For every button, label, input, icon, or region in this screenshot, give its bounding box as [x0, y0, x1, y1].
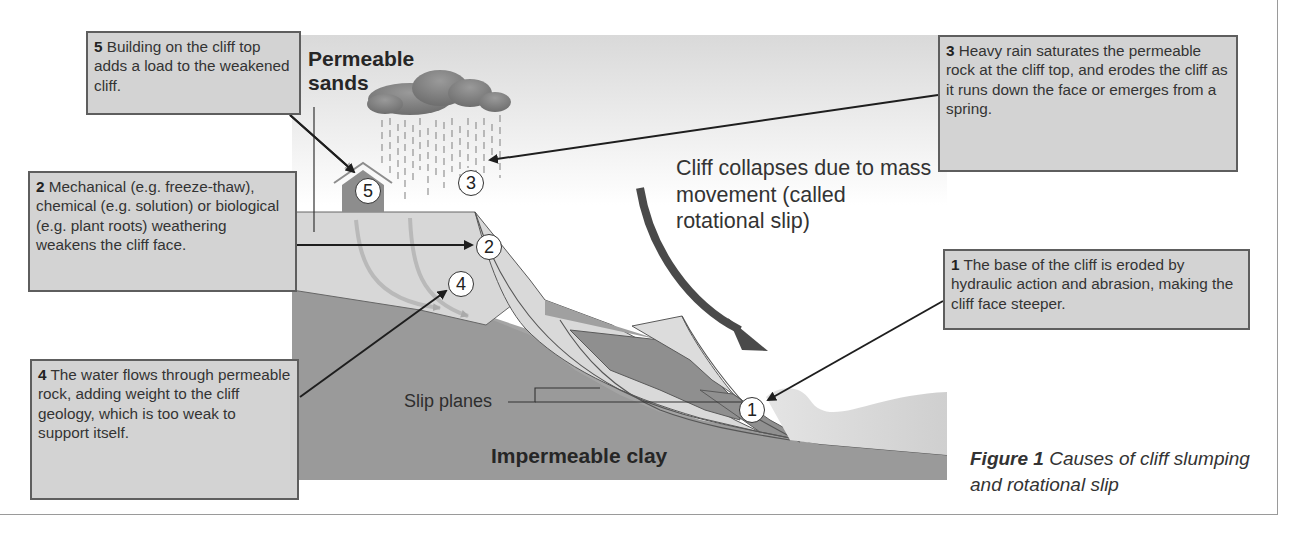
- marker-2: 2: [476, 234, 502, 260]
- leader-1: [768, 301, 943, 400]
- label-collapse-note: Cliff collapses due to mass movement (ca…: [676, 155, 936, 235]
- callout-4: 4 The water flows through permeable rock…: [30, 359, 299, 500]
- label-permeable-sands: Permeable sands: [308, 47, 458, 95]
- label-slip-planes: Slip planes: [404, 391, 492, 412]
- callout-1-number: 1: [951, 256, 960, 273]
- marker-5: 5: [355, 178, 381, 204]
- callout-4-text: The water flows through permeable rock, …: [38, 366, 290, 441]
- callout-2-number: 2: [36, 178, 45, 195]
- caption-title: Figure 1: [970, 448, 1044, 469]
- marker-1: 1: [739, 397, 765, 423]
- callout-3-number: 3: [946, 42, 955, 59]
- callout-1: 1 The base of the cliff is eroded by hyd…: [943, 249, 1250, 330]
- label-impermeable-clay: Impermeable clay: [491, 444, 667, 468]
- marker-3: 3: [458, 170, 484, 196]
- callout-3: 3 Heavy rain saturates the permeable roc…: [938, 35, 1238, 172]
- callout-3-text: Heavy rain saturates the permeable rock …: [946, 42, 1228, 117]
- marker-4: 4: [448, 271, 474, 297]
- figure-caption: Figure 1 Causes of cliff slumping and ro…: [970, 446, 1260, 498]
- callout-5: 5 Building on the cliff top adds a load …: [86, 31, 301, 115]
- callout-4-number: 4: [38, 366, 47, 383]
- callout-1-text: The base of the cliff is eroded by hydra…: [951, 256, 1233, 312]
- callout-5-text: Building on the cliff top adds a load to…: [94, 38, 290, 94]
- callout-2: 2 Mechanical (e.g. freeze-thaw), chemica…: [28, 171, 297, 292]
- callout-5-number: 5: [94, 38, 103, 55]
- callout-2-text: Mechanical (e.g. freeze-thaw), chemical …: [36, 178, 279, 253]
